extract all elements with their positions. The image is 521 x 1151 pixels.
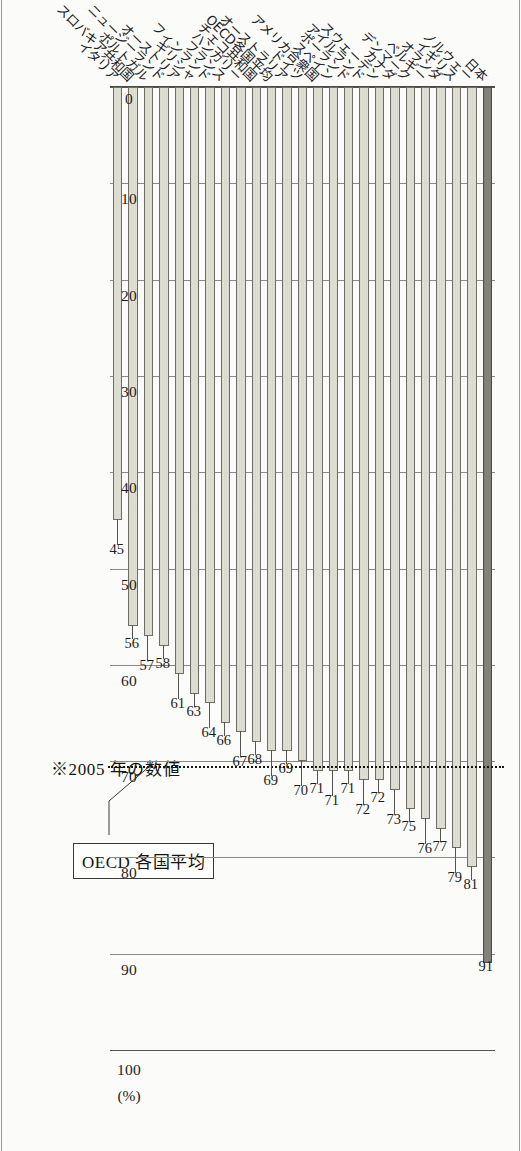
bar-chart-figure: ※2005 年の数値 OECD 各国平均 0102030405060708090… bbox=[0, 0, 521, 1151]
value-label-ドイツ: 70 bbox=[294, 782, 309, 799]
value-label-OECD各国平均: 69 bbox=[263, 772, 278, 789]
bar-row bbox=[113, 87, 122, 1049]
bar-フィンランド[interactable] bbox=[206, 87, 215, 703]
bar-row bbox=[159, 87, 168, 1049]
bar-row bbox=[313, 87, 322, 1049]
bar-ベルギー[interactable] bbox=[421, 87, 430, 819]
value-label-ニュージーランド: 58 bbox=[155, 654, 170, 671]
bar-アメリカ合衆国[interactable] bbox=[313, 87, 322, 771]
bar-row bbox=[175, 87, 184, 1049]
bar-チェコ共和国[interactable] bbox=[252, 87, 261, 742]
value-label-ポーランド: 71 bbox=[340, 779, 355, 796]
value-tick-label-90: 90 bbox=[121, 961, 137, 979]
bar-row bbox=[437, 87, 446, 1049]
value-tick-label-0: 0 bbox=[125, 90, 133, 108]
scanned-page: ※2005 年の数値 OECD 各国平均 0102030405060708090… bbox=[0, 0, 521, 1151]
bar-スペイン[interactable] bbox=[329, 87, 338, 771]
page-rule-bottom bbox=[1, 0, 2, 1151]
value-label-オーストラリア: 69 bbox=[279, 760, 294, 777]
value-label-スロバキア共和国: 56 bbox=[125, 635, 140, 652]
bar-row bbox=[221, 87, 230, 1049]
bar-日本[interactable] bbox=[483, 87, 492, 963]
value-label-スペイン: 71 bbox=[325, 791, 340, 808]
bar-row bbox=[390, 87, 399, 1049]
oecd-average-line bbox=[108, 766, 504, 768]
bar-row bbox=[329, 87, 338, 1049]
bar-イギリス[interactable] bbox=[452, 87, 461, 848]
bar-row bbox=[452, 87, 461, 1049]
plot-area bbox=[110, 86, 495, 1049]
bar-row bbox=[190, 87, 199, 1049]
bar-row bbox=[467, 87, 476, 1049]
bar-row bbox=[267, 87, 276, 1049]
value-tick-label-20: 20 bbox=[121, 287, 137, 305]
value-tick-label-70: 70 bbox=[121, 768, 137, 786]
bar-ニュージーランド[interactable] bbox=[159, 87, 168, 646]
value-label-日本: 91 bbox=[479, 958, 494, 975]
value-label-ハンガリー: 67 bbox=[232, 753, 247, 770]
rotated-figure-wrapper: ※2005 年の数値 OECD 各国平均 0102030405060708090… bbox=[0, 0, 521, 1151]
bar-ポルトガル[interactable] bbox=[144, 87, 153, 636]
value-tick-label-10: 10 bbox=[121, 190, 137, 208]
bar-row bbox=[483, 87, 492, 1049]
bar-row bbox=[375, 87, 384, 1049]
bar-ギリシャ[interactable] bbox=[190, 87, 199, 694]
value-label-イタリア: 45 bbox=[109, 541, 124, 558]
bar-row bbox=[236, 87, 245, 1049]
value-tick-label-60: 60 bbox=[121, 672, 137, 690]
bar-row bbox=[129, 87, 138, 1049]
bar-OECD各国平均[interactable] bbox=[267, 87, 276, 751]
value-label-ギリシャ: 63 bbox=[186, 702, 201, 719]
value-label-アイルランド: 72 bbox=[356, 801, 371, 818]
bar-カナダ[interactable] bbox=[390, 87, 399, 790]
bar-row bbox=[360, 87, 369, 1049]
value-label-ノルウェー: 81 bbox=[463, 876, 478, 893]
bar-オーストラリア[interactable] bbox=[283, 87, 292, 751]
bar-オーストリア[interactable] bbox=[175, 87, 184, 674]
bar-row bbox=[298, 87, 307, 1049]
bar-オランダ[interactable] bbox=[437, 87, 446, 829]
bar-フランス[interactable] bbox=[221, 87, 230, 723]
value-label-スウェーデン: 72 bbox=[371, 789, 386, 806]
bar-ハンガリー[interactable] bbox=[236, 87, 245, 732]
value-tick-label-80: 80 bbox=[121, 864, 137, 882]
value-tick-label-50: 50 bbox=[121, 575, 137, 593]
value-label-ポルトガル: 57 bbox=[140, 656, 155, 673]
value-label-チェコ共和国: 68 bbox=[248, 750, 263, 767]
page-rule-top bbox=[519, 0, 520, 1151]
bar-スウェーデン[interactable] bbox=[375, 87, 384, 780]
value-label-フランス: 66 bbox=[217, 731, 232, 748]
value-tick-label-100: 100 bbox=[117, 1061, 141, 1079]
value-tick-label-40: 40 bbox=[121, 479, 137, 497]
bar-ドイツ[interactable] bbox=[298, 87, 307, 761]
gridline-100 bbox=[110, 1050, 495, 1051]
bar-ノルウェー[interactable] bbox=[467, 87, 476, 867]
bar-デンマーク[interactable] bbox=[406, 87, 415, 809]
bar-row bbox=[252, 87, 261, 1049]
bar-row bbox=[283, 87, 292, 1049]
bar-row bbox=[344, 87, 353, 1049]
value-label-フィンランド: 64 bbox=[202, 724, 217, 741]
bar-row bbox=[406, 87, 415, 1049]
bar-アイルランド[interactable] bbox=[360, 87, 369, 780]
value-label-ベルギー: 76 bbox=[417, 839, 432, 856]
value-axis-unit-label: (%) bbox=[117, 1087, 140, 1105]
bar-ポーランド[interactable] bbox=[344, 87, 353, 771]
value-label-デンマーク: 75 bbox=[402, 818, 417, 835]
bar-row bbox=[144, 87, 153, 1049]
value-label-アメリカ合衆国: 71 bbox=[309, 779, 324, 796]
value-label-カナダ: 73 bbox=[386, 810, 401, 827]
value-tick-label-30: 30 bbox=[121, 383, 137, 401]
value-label-オーストリア: 61 bbox=[171, 695, 186, 712]
bar-row bbox=[421, 87, 430, 1049]
bar-row bbox=[206, 87, 215, 1049]
value-label-オランダ: 77 bbox=[433, 837, 448, 854]
bar-スロバキア共和国[interactable] bbox=[129, 87, 138, 626]
value-label-イギリス: 79 bbox=[448, 868, 463, 885]
